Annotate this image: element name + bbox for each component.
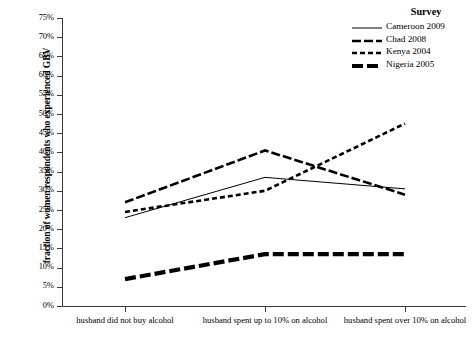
legend-item: Kenya 2004: [352, 45, 474, 58]
legend-swatch: [352, 58, 382, 70]
legend-label: Cameroon 2009: [386, 21, 445, 31]
legend-swatch: [352, 45, 382, 57]
legend-entries: Cameroon 2009Chad 2008Kenya 2004Nigeria …: [352, 20, 474, 70]
legend-item: Nigeria 2005: [352, 58, 474, 71]
series-line: [125, 177, 405, 217]
legend-swatch: [352, 33, 382, 45]
legend-label: Nigeria 2005: [386, 59, 434, 69]
legend-item: Cameroon 2009: [352, 20, 474, 33]
series-line: [125, 254, 405, 279]
legend-label: Kenya 2004: [386, 46, 431, 56]
series-line: [125, 124, 405, 212]
legend: Survey Cameroon 2009Chad 2008Kenya 2004N…: [352, 6, 474, 70]
series-line: [125, 150, 405, 202]
legend-item: Chad 2008: [352, 33, 474, 46]
legend-title: Survey: [378, 6, 474, 17]
chart-container: fraction of women respondents who experi…: [0, 0, 476, 347]
legend-swatch: [352, 20, 382, 32]
legend-label: Chad 2008: [386, 34, 426, 44]
